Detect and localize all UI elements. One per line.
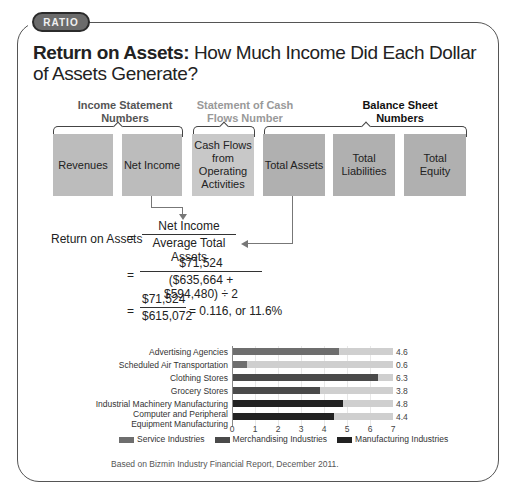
ratio-badge: RATIO [32, 12, 90, 32]
connector-net-income-horizontal [151, 207, 183, 208]
x-tick-1: 1 [250, 424, 260, 434]
value-industrial: 4.8 [396, 399, 408, 409]
group-label-balance: Balance Sheet Numbers [300, 99, 500, 125]
box-cash-flows-label: Cash Flows from Operating Activities [194, 139, 252, 191]
x-tick-4: 4 [319, 424, 329, 434]
value-clothing: 6.3 [396, 373, 408, 383]
page-title: Return on Assets: How Much Income Did Ea… [33, 42, 493, 84]
chart-label-industrial: Industrial Machinery Manufacturing [60, 399, 228, 409]
chart-legend: Service Industries Merchandising Industr… [119, 434, 448, 444]
arrow-left-icon [241, 240, 248, 248]
bar-clothing [233, 374, 378, 381]
box-total-liabilities-label: Total Liabilities [339, 152, 389, 178]
chart-label-clothing: Clothing Stores [80, 373, 228, 383]
box-revenues-label: Revenues [58, 159, 108, 172]
group-cash-line2: Flows Number [190, 112, 300, 125]
x-tick-5: 5 [342, 424, 352, 434]
group-income-line2: Numbers [60, 112, 190, 125]
fraction-3-denominator: $615,072 [140, 309, 186, 323]
value-grocery: 3.8 [396, 386, 408, 396]
bar-computer [233, 413, 334, 420]
x-tick-7: 7 [388, 424, 398, 434]
x-tick-6: 6 [365, 424, 375, 434]
chart-label-computer-line2: Equipment Manufacturing [80, 419, 228, 429]
box-revenues: Revenues [53, 134, 113, 196]
chart-label-computer: Computer and Peripheral Equipment Manufa… [80, 409, 228, 429]
chart-label-grocery: Grocery Stores [80, 386, 228, 396]
box-total-assets-label: Total Assets [265, 159, 324, 172]
legend-item-service: Service Industries [119, 434, 205, 444]
chart-label-computer-line1: Computer and Peripheral [80, 409, 228, 419]
formula-fraction-3: $71,524 $615,072 [140, 292, 186, 323]
group-income-line1: Income Statement [60, 99, 190, 112]
box-total-assets: Total Assets [263, 134, 325, 196]
fraction-2-bar [140, 271, 262, 272]
box-total-equity: Total Equity [404, 134, 466, 196]
box-cash-flows: Cash Flows from Operating Activities [192, 134, 254, 196]
box-total-equity-label: Total Equity [415, 152, 455, 178]
bar-bg-air [233, 361, 393, 368]
group-label-income: Income Statement Numbers [60, 99, 190, 125]
fraction-1-numerator: Net Income [142, 219, 236, 233]
fraction-1-bar [142, 234, 236, 235]
formula-eq-3: = [127, 304, 134, 318]
box-net-income: Net Income [122, 134, 182, 196]
value-computer: 4.4 [396, 412, 408, 422]
bar-advertising [233, 348, 339, 355]
fraction-2-numerator: $71,524 [140, 256, 262, 270]
source-note: Based on Bizmin Industry Financial Repor… [111, 459, 339, 469]
fraction-3-numerator: $71,524 [140, 292, 186, 306]
legend-swatch-merchandising [215, 437, 230, 443]
legend-label-merchandising: Merchandising Industries [233, 434, 328, 444]
group-label-cash: Statement of Cash Flows Number [190, 99, 300, 125]
legend-label-manufacturing: Manufacturing Industries [355, 434, 448, 444]
group-balance-line2: Numbers [300, 112, 500, 125]
legend-label-service: Service Industries [137, 434, 205, 444]
bar-air [233, 361, 247, 368]
fraction-3-bar [140, 307, 186, 308]
x-tick-3: 3 [296, 424, 306, 434]
bar-grocery [233, 387, 320, 394]
bar-industrial [233, 400, 343, 407]
legend-swatch-manufacturing [337, 437, 352, 443]
box-net-income-label: Net Income [124, 159, 180, 172]
chart-label-advertising: Advertising Agencies [80, 347, 228, 357]
legend-swatch-service [119, 437, 134, 443]
formula-eq-2: = [127, 268, 134, 282]
formula-result: = 0.116, or 11.6% [189, 304, 282, 318]
value-advertising: 4.6 [396, 347, 408, 357]
group-cash-line1: Statement of Cash [190, 99, 300, 112]
x-tick-0: 0 [227, 424, 237, 434]
value-air: 0.6 [396, 360, 408, 370]
formula-eq-1: = [127, 231, 134, 245]
legend-item-merchandising: Merchandising Industries [215, 434, 328, 444]
legend-item-manufacturing: Manufacturing Industries [337, 434, 448, 444]
title-bold: Return on Assets: [33, 42, 189, 63]
connector-total-assets-vertical [292, 196, 293, 244]
box-total-liabilities: Total Liabilities [333, 134, 395, 196]
x-tick-2: 2 [273, 424, 283, 434]
group-balance-line1: Balance Sheet [300, 99, 500, 112]
connector-total-assets-horizontal [248, 243, 293, 244]
chart-label-air: Scheduled Air Transportation [60, 360, 228, 370]
